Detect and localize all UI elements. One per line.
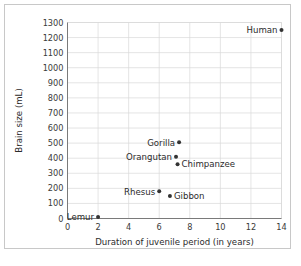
x-tick-label: 0 <box>65 222 70 232</box>
vertical-gridlines <box>68 23 282 219</box>
x-tick-label: 2 <box>95 222 100 232</box>
data-point-marker <box>176 162 180 166</box>
data-point-label: Orangutan <box>126 152 172 162</box>
data-point-marker <box>174 155 178 159</box>
y-tick-label: 1300 <box>43 18 64 28</box>
plot-canvas: 0100200300400500600700800900100011001200… <box>0 0 301 266</box>
data-point-marker <box>96 215 100 219</box>
data-point-marker <box>157 189 161 193</box>
y-tick-label: 300 <box>48 168 64 178</box>
x-axis-title: Duration of juvenile period (in years) <box>95 237 254 247</box>
y-tick-label: 900 <box>48 78 64 88</box>
scatter-chart: 0100200300400500600700800900100011001200… <box>0 0 301 266</box>
data-point-label: Rhesus <box>124 187 156 197</box>
data-point-marker <box>280 28 284 32</box>
y-tick-label: 200 <box>48 183 64 193</box>
data-point-label: Gibbon <box>174 191 205 201</box>
x-tick-label: 4 <box>126 222 131 232</box>
x-tick-label: 14 <box>276 222 286 232</box>
x-tick-label: 10 <box>215 222 225 232</box>
y-tick-label: 500 <box>48 138 64 148</box>
y-tick-label: 1000 <box>43 63 64 73</box>
data-point-label: Human <box>247 25 278 35</box>
horizontal-gridlines <box>68 23 282 204</box>
data-point-label: Lemur <box>67 212 95 222</box>
data-point-label: Chimpanzee <box>182 159 235 169</box>
y-tick-label: 700 <box>48 108 64 118</box>
x-axis-tick-labels: 02468101214 <box>65 222 287 232</box>
data-point-label: Gorilla <box>147 138 175 148</box>
y-tick-label: 800 <box>48 93 64 103</box>
y-tick-label: 0 <box>58 214 63 224</box>
y-axis-tick-labels: 0100200300400500600700800900100011001200… <box>43 18 64 224</box>
axis-lines <box>68 23 282 219</box>
y-tick-label: 600 <box>48 123 64 133</box>
data-point-marker <box>177 140 181 144</box>
y-axis-title: Brain size (mL) <box>14 88 24 153</box>
x-tick-label: 6 <box>157 222 162 232</box>
y-tick-label: 100 <box>48 198 64 208</box>
data-point-marker <box>168 194 172 198</box>
y-tick-label: 1200 <box>43 33 64 43</box>
y-tick-label: 1100 <box>43 48 64 58</box>
x-tick-label: 8 <box>187 222 192 232</box>
y-tick-label: 400 <box>48 153 64 163</box>
x-tick-label: 12 <box>246 222 256 232</box>
